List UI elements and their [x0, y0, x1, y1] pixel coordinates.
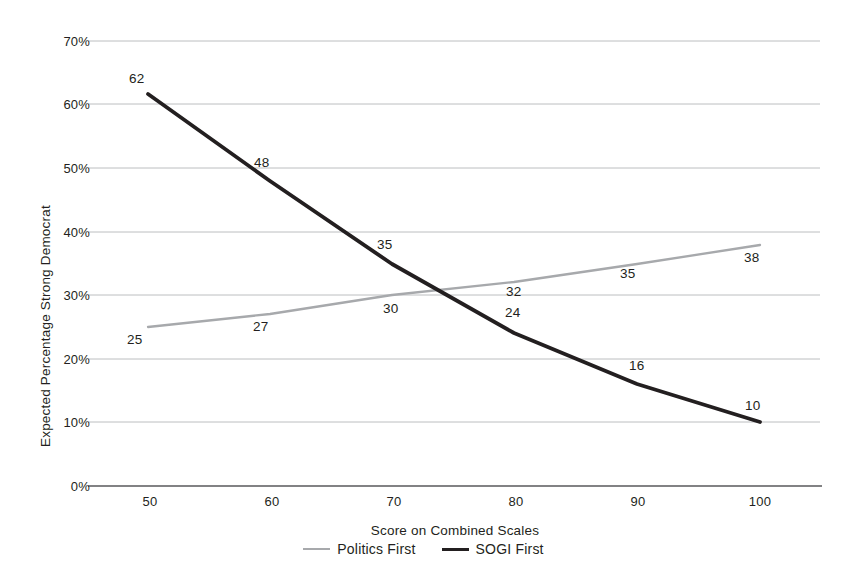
- legend-item-sogi-first[interactable]: SOGI First: [442, 541, 544, 557]
- legend-label: SOGI First: [476, 541, 544, 557]
- legend-line-swatch-icon: [442, 548, 469, 551]
- data-label-sogi-first: 48: [254, 155, 269, 170]
- data-label-sogi-first: 62: [129, 71, 144, 86]
- y-tick-label: 50%: [44, 161, 90, 176]
- data-label-sogi-first: 24: [505, 305, 520, 320]
- x-tick-label: 80: [491, 494, 541, 509]
- series-line-politics-first: [148, 245, 760, 327]
- data-label-sogi-first: 35: [377, 237, 392, 252]
- x-tick-label: 60: [247, 494, 297, 509]
- data-label-politics-first: 27: [253, 319, 268, 334]
- data-label-sogi-first: 10: [745, 398, 760, 413]
- y-tick-label: 0%: [44, 479, 90, 494]
- data-label-politics-first: 25: [127, 332, 142, 347]
- x-tick-label: 50: [125, 494, 175, 509]
- data-label-politics-first: 32: [506, 284, 521, 299]
- legend-label: Politics First: [337, 541, 415, 557]
- chart-legend: Politics First SOGI First: [0, 541, 847, 557]
- chart-figure: 70% 60% 50% 40% 30% 20% 10% 0% 50 60 70 …: [0, 0, 847, 585]
- data-label-politics-first: 35: [620, 266, 635, 281]
- y-axis-title: Expected Percentage Strong Democrat: [38, 205, 53, 447]
- x-tick-label: 70: [369, 494, 419, 509]
- x-tick-label: 100: [735, 494, 785, 509]
- data-label-politics-first: 38: [744, 250, 759, 265]
- x-axis-title: Score on Combined Scales: [255, 523, 655, 538]
- data-label-politics-first: 30: [383, 301, 398, 316]
- legend-item-politics-first[interactable]: Politics First: [303, 541, 415, 557]
- x-tick-label: 90: [613, 494, 663, 509]
- series-line-sogi-first: [148, 94, 760, 422]
- y-tick-label: 70%: [44, 34, 90, 49]
- y-tick-label: 60%: [44, 97, 90, 112]
- data-label-sogi-first: 16: [629, 358, 644, 373]
- legend-line-swatch-icon: [303, 548, 330, 550]
- gridlines: [88, 41, 820, 422]
